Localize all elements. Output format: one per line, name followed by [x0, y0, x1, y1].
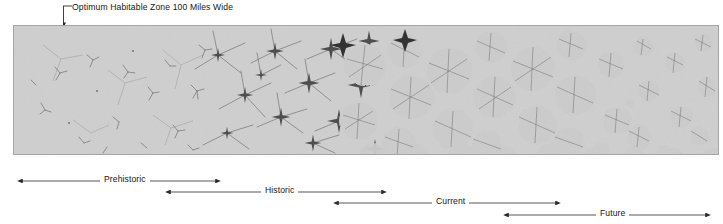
callout-label: Optimum Habitable Zone 100 Miles Wide — [72, 2, 233, 12]
period-label-historic: Historic — [261, 185, 298, 195]
period-label-prehistoric: Prehistoric — [100, 174, 150, 184]
urban-growth-illustration — [13, 25, 719, 155]
period-label-current: Current — [432, 196, 469, 206]
period-label-future: Future — [596, 208, 629, 218]
diagram-page: Optimum Habitable Zone 100 Miles Wide — [0, 0, 723, 224]
growth-strip-svg — [13, 25, 719, 155]
